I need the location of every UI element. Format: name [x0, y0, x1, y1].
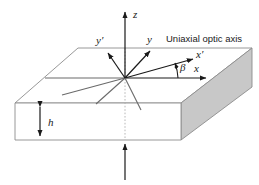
axis-label-x-prime: x′	[195, 48, 204, 60]
axis-label-z: z	[132, 8, 138, 20]
thickness-label-h: h	[48, 116, 54, 128]
uniaxial-slab-diagram: z x x′ β y y′	[0, 0, 259, 185]
axis-label-x: x	[193, 62, 199, 74]
figure-root: z x x′ β y y′	[0, 0, 259, 185]
axis-label-y: y	[146, 33, 152, 45]
axis-label-y-prime: y′	[95, 34, 104, 46]
optic-axis-caption: Uniaxial optic axis	[166, 33, 242, 44]
angle-label-beta: β	[179, 61, 186, 73]
